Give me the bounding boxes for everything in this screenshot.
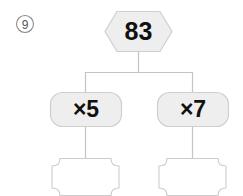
- operation-label-right: ×7: [180, 96, 206, 122]
- notched-rect-shape[interactable]: [159, 159, 226, 196]
- problem-number-marker: 9: [17, 16, 34, 33]
- answer-box-left[interactable]: [52, 159, 119, 196]
- operation-label-left: ×5: [73, 96, 99, 122]
- worksheet-page: 9 83 ×5 ×7: [0, 0, 243, 196]
- notched-rect-shape[interactable]: [52, 159, 119, 196]
- operation-node-right: ×7: [158, 93, 229, 127]
- problem-number-label: 9: [22, 18, 29, 32]
- root-node: 83: [105, 12, 172, 52]
- operation-node-left: ×5: [51, 93, 122, 127]
- number-tree-diagram: 9 83 ×5 ×7: [0, 0, 243, 196]
- answer-box-right[interactable]: [159, 159, 226, 196]
- root-value-label: 83: [125, 17, 153, 45]
